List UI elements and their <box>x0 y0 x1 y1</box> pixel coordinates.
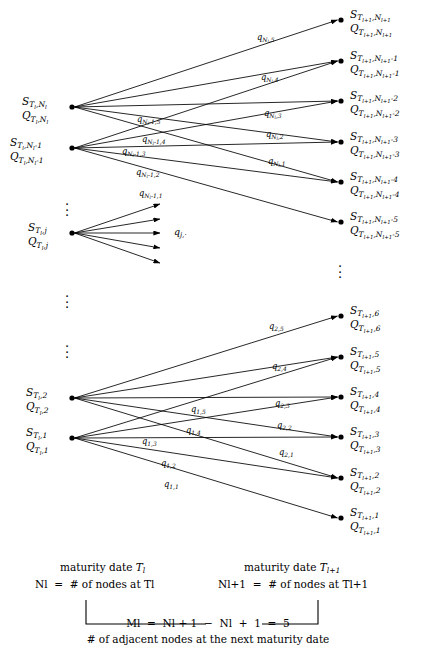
left-node-Q-line: QTl,j <box>28 236 48 250</box>
figure-canvas: STl,Nl QTl,Nl STl,Nl-1 QTl,Nl-1 STl,j QT… <box>0 0 434 652</box>
right-node-Q-line: QTl+1,2 <box>350 481 381 495</box>
right-node-dot <box>338 394 343 399</box>
right-node-Q-line: QTl+1,Nl+1-5 <box>350 225 400 239</box>
edge-label: q2,3 <box>275 399 290 409</box>
edge-line <box>75 397 338 438</box>
edge-label: q1,3 <box>142 437 157 447</box>
edge-label: qNl,5 <box>257 33 275 45</box>
right-node-S-line: STl+1,Nl+1-1 <box>350 50 400 64</box>
left-lower-ellipsis: ... <box>65 290 69 307</box>
left-column-caption-line1: maturity date Tl <box>60 561 145 575</box>
left-bottom-ellipsis: ... <box>65 340 69 357</box>
edge-label: q1,1 <box>164 480 179 490</box>
right-node-dot <box>338 475 343 480</box>
left-node-Q-line: QTl,2 <box>26 401 49 415</box>
right-node-Q-line: QTl+1,5 <box>350 360 381 374</box>
edge-line <box>75 438 338 518</box>
right-node-S-line: STl+1,6 <box>350 305 381 319</box>
edge-line <box>75 61 338 107</box>
edge-line <box>75 107 338 182</box>
left-node-dot <box>69 145 74 150</box>
right-column-caption-line1: maturity date Tl+1 <box>244 561 340 575</box>
left-column-caption-line2: Nl = # of nodes at Tl <box>35 578 154 590</box>
right-node-dot <box>338 434 343 439</box>
edge-label: qNl-1,2 <box>136 168 159 180</box>
right-node-dot <box>338 515 343 520</box>
right-node-label: STl+1,Nl+1-3QTl+1,Nl+1-3 <box>350 131 400 160</box>
middle-fan-label: qj,· <box>174 227 187 239</box>
edge-label: qNl,3 <box>264 109 282 121</box>
right-node-Q-line: QTl+1,6 <box>350 319 381 333</box>
right-node-dot <box>338 219 343 224</box>
right-node-S-line: STl+1,Nl+1-5 <box>350 211 400 225</box>
edge-line <box>75 438 338 478</box>
right-node-dot <box>338 58 343 63</box>
left-node-Q-line: QTl,Nl-1 <box>10 151 44 165</box>
edge-label: qNl-1,4 <box>142 135 165 147</box>
left-node-label: STl,Nl QTl,Nl <box>22 96 48 125</box>
fan-arrow <box>75 233 161 263</box>
right-column-caption-line2: Nl+1 = # of nodes at Tl+1 <box>218 578 368 590</box>
edge-label: q1,5 <box>191 405 206 415</box>
left-upper-ellipsis: ... <box>65 198 69 215</box>
left-node-Q-line: QTl,1 <box>26 441 49 455</box>
edge-line <box>75 142 338 148</box>
right-node-label: STl+1,Nl+1-5QTl+1,Nl+1-5 <box>350 211 400 240</box>
edge-line <box>75 437 338 438</box>
left-node-S-line: STl,j <box>28 222 48 236</box>
left-node-Q-line: QTl,Nl <box>22 110 48 124</box>
right-node-Q-line: QTl+1,Nl+1 <box>350 23 392 37</box>
left-node-S-line: STl,Nl <box>22 96 48 110</box>
right-node-Q-line: QTl+1,Nl+1-1 <box>350 64 400 78</box>
bracket-note: # of adjacent nodes at the next maturity… <box>87 633 330 645</box>
right-node-Q-line: QTl+1,Nl+1-2 <box>350 104 400 118</box>
left-node-dot <box>69 435 74 440</box>
right-node-S-line: STl+1,Nl+1 <box>350 9 392 23</box>
left-node-label: STl,1 QTl,1 <box>26 427 49 456</box>
edge-line <box>75 148 338 222</box>
right-node-Q-line: QTl+1,Nl+1-3 <box>350 145 400 159</box>
right-node-label: STl+1,Nl+1-2QTl+1,Nl+1-2 <box>350 90 400 119</box>
right-node-Q-line: QTl+1,3 <box>350 440 381 454</box>
right-ellipsis: ... <box>338 260 342 277</box>
right-node-dot <box>338 179 343 184</box>
middle-node-fan-arrows <box>75 204 161 263</box>
edge-label: qNl-1,1 <box>139 189 162 201</box>
left-node-label: STl,j QTl,j <box>28 222 48 251</box>
fan-arrow <box>75 233 161 248</box>
edge-line <box>75 316 338 398</box>
right-node-label: STl+1,4QTl+1,4 <box>350 386 381 415</box>
right-node-S-line: STl+1,4 <box>350 386 381 400</box>
left-node-dot <box>69 104 74 109</box>
edge-label: q2,5 <box>269 322 284 332</box>
right-node-dot <box>338 354 343 359</box>
right-node-label: STl+1,3QTl+1,3 <box>350 426 381 455</box>
right-node-Q-line: QTl+1,Nl+1-4 <box>350 185 400 199</box>
edge-label: qNl-1,5 <box>137 115 160 127</box>
right-node-S-line: STl+1,Nl+1-3 <box>350 131 400 145</box>
edge-label: qNl,4 <box>261 73 279 85</box>
left-node-label: STl,Nl-1 QTl,Nl-1 <box>10 137 44 166</box>
right-node-S-line: STl+1,2 <box>350 467 381 481</box>
left-node-dot <box>69 230 74 235</box>
left-node-S-line: STl,1 <box>26 427 49 441</box>
right-node-label: STl+1,6QTl+1,6 <box>350 305 381 334</box>
edge-line <box>75 148 338 182</box>
edge-label: q1,4 <box>186 426 201 436</box>
edge-line <box>75 101 338 107</box>
bracket-formula: Ml = Nl + 1 − Nl + 1 = 5 <box>126 617 289 629</box>
left-node-S-line: STl,2 <box>26 387 49 401</box>
edge-line <box>75 20 338 107</box>
left-node-S-line: STl,Nl-1 <box>10 137 44 151</box>
left-node-label: STl,2 QTl,2 <box>26 387 49 416</box>
edge-line <box>75 357 338 398</box>
edge-label: qNl,2 <box>266 130 284 142</box>
right-node-dot <box>338 139 343 144</box>
edge-line <box>75 61 338 148</box>
fan-arrow <box>75 204 161 233</box>
right-node-label: STl+1,5QTl+1,5 <box>350 346 381 375</box>
right-node-S-line: STl+1,3 <box>350 426 381 440</box>
right-node-label: STl+1,Nl+1-1QTl+1,Nl+1-1 <box>350 50 400 79</box>
right-node-dot <box>338 17 343 22</box>
right-node-S-line: STl+1,Nl+1-4 <box>350 171 400 185</box>
